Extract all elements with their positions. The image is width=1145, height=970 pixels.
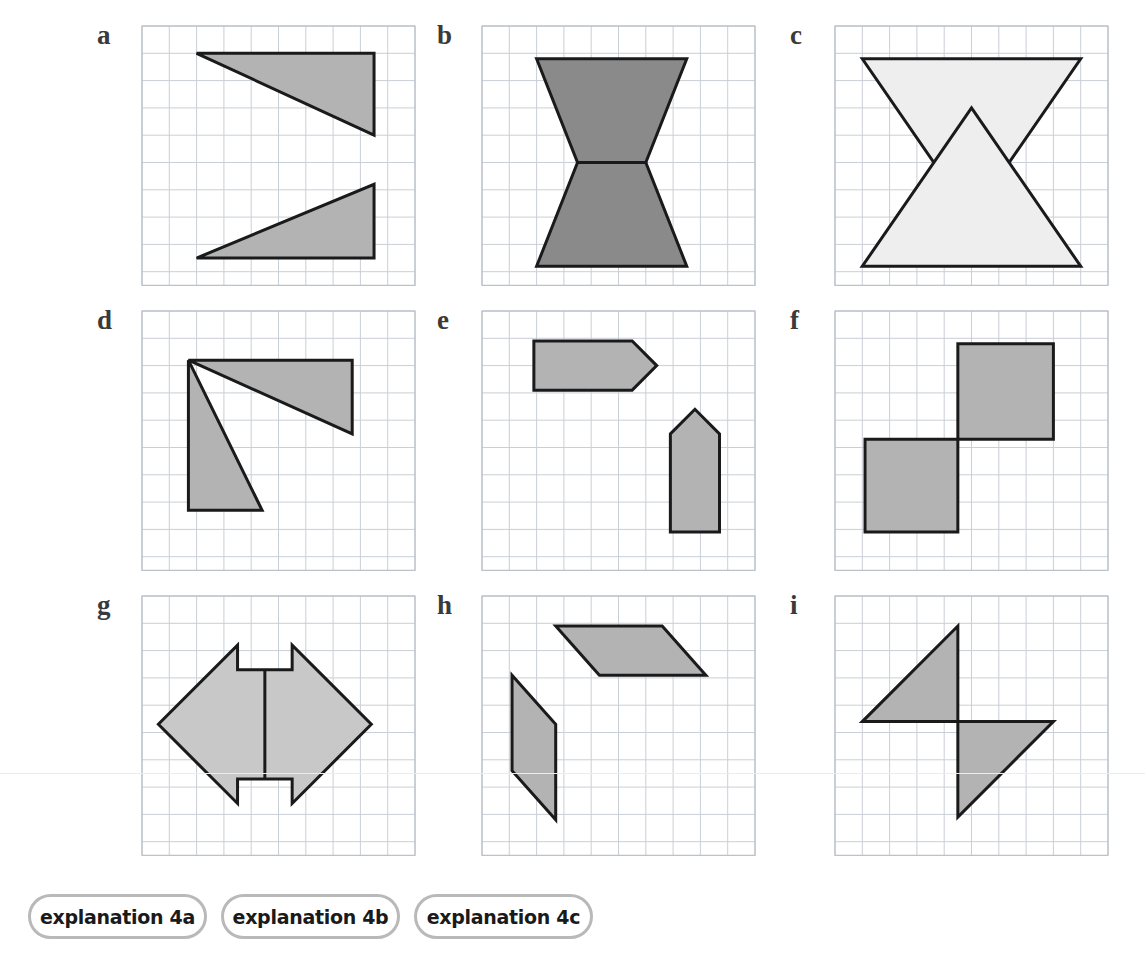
grid-i: [834, 595, 1109, 856]
shape-square-lower-left: [865, 439, 958, 532]
explanation-button-4b[interactable]: explanation 4b: [221, 894, 400, 939]
panel-label-d: d: [97, 307, 112, 334]
explanation-button-4c[interactable]: explanation 4c: [414, 894, 593, 939]
grid-c: [834, 25, 1109, 286]
shape-square-upper-right: [958, 344, 1054, 440]
panel-label-i: i: [790, 592, 798, 619]
grid-h: [481, 595, 756, 856]
geometry-worksheet: abcdefghi explanation 4aexplanation 4bex…: [0, 0, 1145, 970]
grid-f: [834, 310, 1109, 571]
grid-e: [481, 310, 756, 571]
grid-a: [141, 25, 416, 286]
panel-label-b: b: [437, 22, 452, 49]
panel-label-e: e: [437, 307, 449, 334]
panel-label-h: h: [437, 592, 452, 619]
explanation-button-4a[interactable]: explanation 4a: [28, 894, 207, 939]
panel-label-f: f: [790, 307, 799, 334]
grid-g: [141, 595, 416, 856]
panel-label-a: a: [97, 22, 111, 49]
grid-d: [141, 310, 416, 571]
grid-b: [481, 25, 756, 286]
explanation-button-label: explanation 4c: [427, 906, 581, 928]
explanation-button-label: explanation 4b: [233, 906, 389, 928]
footer-controls: explanation 4aexplanation 4bexplanation …: [0, 888, 1145, 970]
shape-pentagon-arrow-vertical: [670, 409, 719, 532]
shape-pentagon-arrow-horizontal: [534, 341, 657, 390]
explanation-button-label: explanation 4a: [40, 906, 195, 928]
page-hairline: [0, 773, 1145, 774]
panel-label-c: c: [790, 22, 802, 49]
panel-label-g: g: [97, 592, 111, 619]
